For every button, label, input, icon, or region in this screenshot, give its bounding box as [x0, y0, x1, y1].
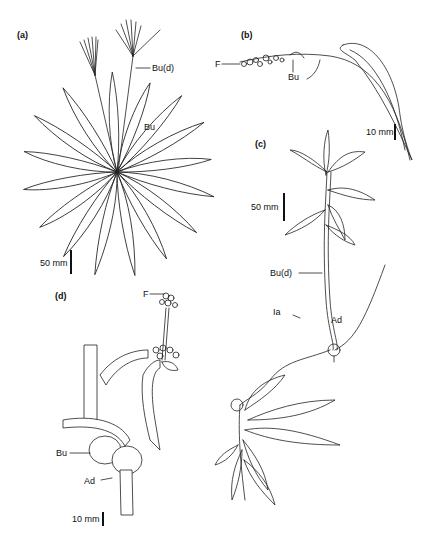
annotation-adventitious: Ad [331, 316, 342, 325]
annotation-bud: Bu [56, 449, 67, 458]
panel-label-b: (b) [241, 31, 253, 40]
figure-drawing [0, 0, 433, 543]
annotation-internode: Ia [273, 308, 281, 317]
annotation-flower: F [143, 290, 149, 299]
panel-label-a: (a) [17, 31, 28, 40]
scale-bar-label: 10 mm [366, 128, 394, 137]
panel-a-rosette [23, 20, 216, 276]
annotation-bud-dormant: Bu(d) [152, 64, 174, 73]
scale-bar-label: 10 mm [72, 515, 100, 524]
annotation-bud: Bu [288, 73, 299, 82]
scale-bar-label: 50 mm [40, 259, 68, 268]
panel-d-rhizome [63, 293, 179, 526]
panel-c-stem [215, 130, 385, 505]
panel-label-c: (c) [255, 140, 266, 149]
annotation-bud-dormant: Bu(d) [270, 269, 292, 278]
panel-label-d: (d) [55, 292, 67, 301]
panel-b-shoot [222, 43, 412, 160]
annotation-adventitious: Ad [84, 477, 95, 486]
annotation-flower: F [215, 60, 221, 69]
scale-bar-label: 50 mm [251, 203, 279, 212]
annotation-bud: Bu [144, 123, 155, 132]
